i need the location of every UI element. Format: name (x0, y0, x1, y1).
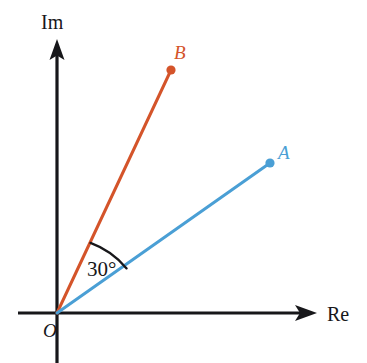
angle-label: 30° (87, 257, 116, 281)
vector-oa-line (57, 163, 270, 313)
point-b-label: B (174, 42, 186, 63)
point-a-label: A (276, 142, 290, 163)
complex-plane-figure: Im Re O B A 30° (0, 0, 367, 363)
real-axis-label: Re (327, 303, 349, 325)
point-a-dot (265, 158, 274, 167)
origin-label: O (43, 320, 57, 341)
point-b-dot (166, 65, 175, 74)
imaginary-axis-label: Im (41, 11, 64, 33)
diagram-canvas: Im Re O B A 30° (0, 0, 367, 363)
